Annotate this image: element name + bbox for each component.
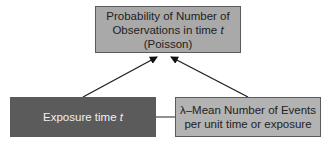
outcome-line-1: Probability of Number of [106, 9, 229, 23]
exposure-label-text: Exposure time [43, 111, 120, 123]
rate-line-2: per unit time or exposure [180, 117, 316, 131]
exposure-time-variable: t [120, 111, 123, 123]
exposure-label: Exposure time t [43, 110, 123, 124]
outcome-node-poisson-probability: Probability of Number of Observations in… [95, 6, 241, 53]
rate-line-1: λ–Mean Number of Events [180, 103, 316, 117]
outcome-time-variable: t [220, 24, 223, 36]
mean-rate-lambda-node: λ–Mean Number of Events per unit time or… [175, 97, 321, 137]
outcome-line-3: (Poisson) [106, 37, 229, 51]
outcome-line-2: Observations in time t [106, 23, 229, 37]
edge-rate-to-outcome [171, 57, 248, 97]
edge-exposure-to-outcome [83, 57, 157, 97]
exposure-time-node: Exposure time t [10, 97, 156, 137]
outcome-line-2-text: Observations in time [112, 24, 220, 36]
